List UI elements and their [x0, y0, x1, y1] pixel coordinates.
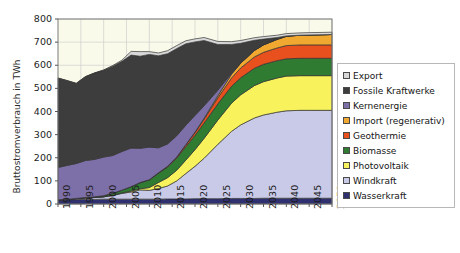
x-tick-label: 2000 — [108, 185, 118, 209]
legend-swatch-icon — [343, 72, 350, 79]
legend-item-label: Biomasse — [353, 146, 396, 156]
legend-swatch-icon — [343, 87, 350, 94]
legend-swatch-icon — [343, 162, 350, 169]
x-tick-label: 2040 — [290, 185, 300, 209]
legend-item-label: Windkraft — [353, 176, 397, 186]
legend-item-label: Export — [353, 71, 382, 81]
stacked-area-chart: Bruttostromverbrauch in TWh 010020030040… — [0, 0, 460, 253]
legend-item-label: Kernenergie — [353, 101, 407, 111]
legend-item-label: Geothermie — [353, 131, 406, 141]
legend-swatch-icon — [343, 177, 350, 184]
y-tick-label: 600 — [22, 60, 52, 70]
legend-item[interactable]: Windkraft — [342, 173, 450, 188]
x-tick-label: 2005 — [131, 185, 141, 209]
legend-item[interactable]: Import (regenerativ) — [342, 113, 450, 128]
chart-legend: ExportFossile KraftwerkeKernenergieImpor… — [337, 63, 455, 208]
x-tick-label: 1990 — [62, 185, 72, 209]
legend-item[interactable]: Geothermie — [342, 128, 450, 143]
y-tick-label: 200 — [22, 153, 52, 163]
x-tick-label: 2045 — [313, 185, 323, 209]
legend-item[interactable]: Kernenergie — [342, 98, 450, 113]
legend-item[interactable]: Biomasse — [342, 143, 450, 158]
x-tick-label: 2035 — [268, 185, 278, 209]
legend-swatch-icon — [343, 147, 350, 154]
legend-swatch-icon — [343, 117, 350, 124]
x-tick-label: 2030 — [245, 185, 255, 209]
legend-item-label: Photovoltaik — [353, 161, 409, 171]
legend-swatch-icon — [343, 132, 350, 139]
legend-item-label: Import (regenerativ) — [353, 116, 445, 126]
x-tick-label: 2010 — [153, 185, 163, 209]
y-tick-label: 500 — [22, 83, 52, 93]
x-tick-label: 2020 — [199, 185, 209, 209]
legend-item-label: Fossile Kraftwerke — [353, 86, 435, 96]
legend-item-label: Wasserkraft — [353, 191, 406, 201]
legend-item[interactable]: Photovoltaik — [342, 158, 450, 173]
x-tick-label: 2025 — [222, 185, 232, 209]
y-tick-label: 400 — [22, 107, 52, 117]
x-tick-label: 1995 — [85, 185, 95, 209]
legend-swatch-icon — [343, 102, 350, 109]
y-tick-label: 0 — [22, 199, 52, 209]
legend-item[interactable]: Wasserkraft — [342, 188, 450, 203]
y-tick-label: 800 — [22, 14, 52, 24]
legend-item[interactable]: Fossile Kraftwerke — [342, 83, 450, 98]
x-tick-label: 2015 — [176, 185, 186, 209]
y-tick-label: 700 — [22, 37, 52, 47]
legend-swatch-icon — [343, 192, 350, 199]
legend-item[interactable]: Export — [342, 68, 450, 83]
y-tick-label: 100 — [22, 176, 52, 186]
y-tick-label: 300 — [22, 130, 52, 140]
